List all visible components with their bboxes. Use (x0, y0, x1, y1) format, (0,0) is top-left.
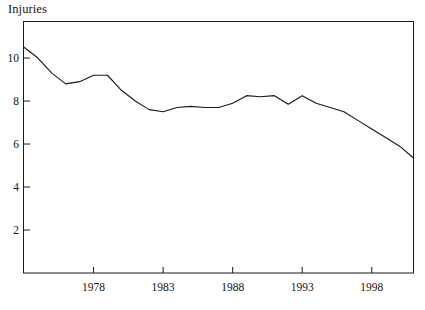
injuries-line-chart-figure: Injuries 246810 19781983198819931998 (0, 0, 425, 310)
y-axis-tick-label: 6 (13, 138, 19, 150)
x-axis-tick-label: 1983 (152, 281, 175, 293)
plot-frame (24, 22, 414, 274)
chart-plot-area: 246810 19781983198819931998 (0, 0, 425, 310)
y-axis-tick-label: 8 (13, 95, 19, 107)
x-axis-tick-label: 1993 (291, 281, 314, 293)
y-axis-tick-label: 2 (13, 224, 19, 236)
x-axis-tick-label: 1998 (360, 281, 383, 293)
y-axis-tick-label: 4 (13, 181, 19, 193)
y-axis-tick-label: 10 (8, 52, 20, 64)
data-line-injuries (24, 47, 414, 158)
x-axis: 19781983198819931998 (82, 267, 383, 293)
x-axis-tick-label: 1988 (221, 281, 244, 293)
x-axis-tick-label: 1978 (82, 281, 105, 293)
y-axis: 246810 (8, 52, 31, 236)
